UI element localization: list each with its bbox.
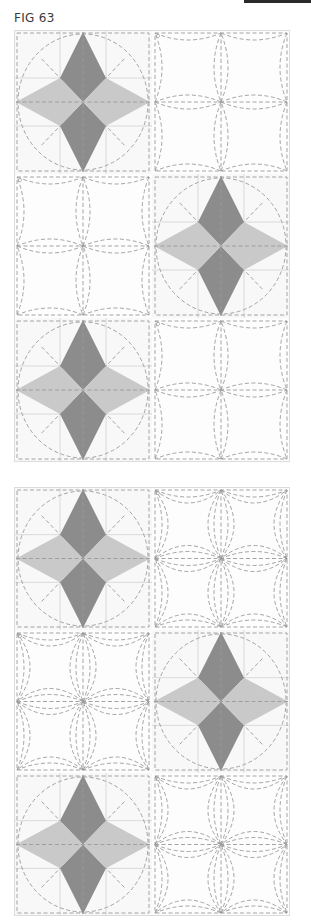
star-block <box>14 318 152 462</box>
quilt-diagram-double-arc <box>14 487 290 916</box>
figure-label: FIG 63 <box>14 11 55 25</box>
star-block <box>14 773 152 916</box>
plain-quilted-block <box>152 773 290 916</box>
star-block <box>14 487 152 630</box>
plain-quilted-block <box>14 174 152 318</box>
star-block <box>14 30 152 174</box>
plain-quilted-block <box>152 30 290 174</box>
plain-quilted-block <box>14 630 152 773</box>
header-bar <box>244 0 311 3</box>
star-block <box>152 174 290 318</box>
star-block <box>152 630 290 773</box>
quilt-diagram-single-arc <box>14 30 290 462</box>
plain-quilted-block <box>152 318 290 462</box>
plain-quilted-block <box>152 487 290 630</box>
